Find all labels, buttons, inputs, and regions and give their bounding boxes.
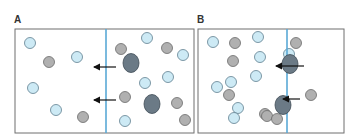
- small-light-particle: [142, 33, 153, 44]
- small-light-particle: [25, 38, 36, 49]
- large-dark-particle: [144, 95, 160, 114]
- small-gray-particle: [120, 92, 131, 103]
- large-dark-particle: [275, 96, 291, 115]
- small-light-particle: [212, 82, 223, 93]
- small-light-particle: [72, 52, 83, 63]
- small-light-particle: [51, 105, 62, 116]
- small-gray-particle: [162, 43, 173, 54]
- small-light-particle: [208, 37, 219, 48]
- small-gray-particle: [116, 44, 127, 55]
- small-gray-particle: [306, 90, 317, 101]
- small-light-particle: [253, 32, 264, 43]
- small-light-particle: [229, 113, 240, 124]
- small-gray-particle: [172, 98, 183, 109]
- small-gray-particle: [272, 114, 283, 125]
- small-light-particle: [163, 72, 174, 83]
- small-light-particle: [178, 50, 189, 61]
- small-gray-particle: [228, 56, 239, 67]
- small-gray-particle: [44, 57, 55, 68]
- small-light-particle: [255, 52, 266, 63]
- small-gray-particle: [262, 111, 273, 122]
- small-gray-particle: [78, 112, 89, 123]
- large-dark-particle: [282, 55, 298, 74]
- small-light-particle: [140, 78, 151, 89]
- diffusion-diagram: [0, 0, 357, 139]
- small-gray-particle: [224, 90, 235, 101]
- small-light-particle: [251, 71, 262, 82]
- small-light-particle: [120, 116, 131, 127]
- small-gray-particle: [230, 38, 241, 49]
- small-light-particle: [226, 77, 237, 88]
- small-light-particle: [233, 103, 244, 114]
- panel-a: [15, 29, 194, 133]
- small-gray-particle: [291, 38, 302, 49]
- small-light-particle: [28, 83, 39, 94]
- panel-b: [198, 29, 344, 133]
- large-dark-particle: [123, 54, 139, 73]
- small-gray-particle: [180, 115, 191, 126]
